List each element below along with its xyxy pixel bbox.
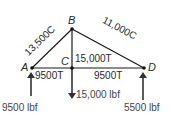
- node-label-d: D: [148, 61, 156, 73]
- truss-diagram: A B C D 13,500C 11,000C 15,000T 9500T 95…: [0, 0, 172, 122]
- member-label-bc: 15,000T: [75, 53, 112, 64]
- member-label-ab: 13,500C: [22, 23, 57, 57]
- force-label-a: 9500 lbf: [2, 102, 38, 113]
- member-label-bd: 11,000C: [101, 14, 139, 41]
- member-label-ac: 9500T: [35, 70, 63, 81]
- joint-a: [30, 66, 34, 70]
- member-label-cd: 9500T: [94, 70, 122, 81]
- joint-b: [70, 27, 74, 31]
- force-label-d: 5500 lbf: [124, 102, 160, 113]
- joint-d: [142, 66, 146, 70]
- joint-c: [70, 66, 74, 70]
- node-label-b: B: [68, 14, 75, 26]
- force-label-c: 15,000 lbf: [76, 89, 120, 100]
- node-label-a: A: [20, 61, 28, 73]
- node-label-c: C: [61, 55, 69, 67]
